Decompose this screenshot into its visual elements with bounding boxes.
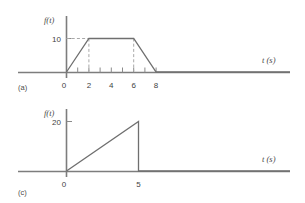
origin-label-a: 0 <box>62 81 67 90</box>
x-tick-label-8-a: 8 <box>154 81 159 90</box>
waveform-sawtooth-c <box>67 122 291 172</box>
y-axis-label-c: f(t) <box>44 108 55 118</box>
chart-a-canvas: f(t) t (s) 10 0 2 4 6 8 (a) <box>0 0 305 101</box>
x-axis-label-a: t (s) <box>262 55 276 65</box>
y-value-label-10: 10 <box>52 35 61 44</box>
y-value-label-20: 20 <box>52 118 61 127</box>
waveform-trapezoid-a <box>67 39 291 73</box>
panel-tag-c: (c) <box>18 188 27 197</box>
figure-panel-c: f(t) t (s) 20 0 5 (c) <box>0 101 305 202</box>
x-axis-label-c: t (s) <box>262 154 276 164</box>
figure-panel-a: f(t) t (s) 10 0 2 4 6 8 (a) <box>0 0 305 101</box>
x-tick-label-6-a: 6 <box>131 81 136 90</box>
y-axis-label-a: f(t) <box>44 15 55 25</box>
figure-sheet: f(t) t (s) 10 0 2 4 6 8 (a) f(t) t (s) 2… <box>0 0 305 203</box>
x-tick-label-4-a: 4 <box>109 81 114 90</box>
panel-tag-a: (a) <box>18 83 28 92</box>
chart-c-canvas: f(t) t (s) 20 0 5 (c) <box>0 101 305 203</box>
x-tick-label-2-a: 2 <box>87 81 92 90</box>
origin-label-c: 0 <box>62 180 67 189</box>
x-tick-label-5-c: 5 <box>136 180 141 189</box>
